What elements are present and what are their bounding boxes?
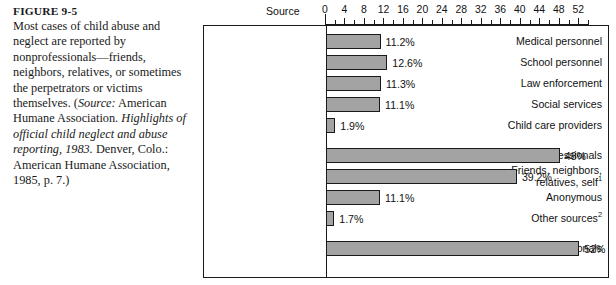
bar-category-label-line1: Law enforcement (521, 78, 602, 90)
x-axis-tick-label: 12 (378, 4, 390, 15)
chart-bar-row: Friends, neighbors,relatives, self139.2% (204, 166, 608, 187)
bar-value-label: 1.7% (334, 208, 363, 229)
chart-axis-header: Source 0481216202428323640444852 (203, 0, 609, 25)
x-axis-major-tick (422, 18, 423, 25)
bar-value-label: 39.2% (517, 166, 552, 187)
x-axis-major-tick (403, 18, 404, 25)
chart-bar-row: Law enforcement11.3% (204, 73, 608, 94)
caption-run: nonprofessionals—friends, (13, 50, 146, 64)
x-axis-tick-label: 20 (417, 4, 429, 15)
x-axis-tick-label: 48 (553, 4, 565, 15)
bar-category-label: Child care providers (488, 115, 608, 136)
bar-category-label: Law enforcement (488, 73, 608, 94)
bar-category-label-line1: Anonymous (546, 192, 602, 204)
x-axis-tick-label: 44 (533, 4, 545, 15)
footnote-marker: 1 (598, 174, 602, 183)
x-axis-major-tick (442, 18, 443, 25)
chart-bar (326, 97, 380, 112)
caption-run: Source: (78, 96, 116, 110)
bar-value-label: 11.1% (380, 187, 414, 208)
footnote-marker: 2 (598, 210, 602, 219)
x-axis-major-tick (539, 18, 540, 25)
chart-bar-row: Child care providers1.9% (204, 115, 608, 136)
chart-bar-row: Anonymous11.1% (204, 187, 608, 208)
chart-bar (326, 190, 380, 205)
bar-category-label-line1: Medical personnel (516, 36, 602, 48)
x-axis-tick-label: 32 (475, 4, 487, 15)
bar-category-label-line1: Child care providers (508, 120, 602, 132)
x-axis-tick-label: 52 (572, 4, 584, 15)
bar-category-label: Social services (488, 94, 608, 115)
chart-bar-row: Total professionals48% (204, 145, 608, 166)
x-axis-tick-label: 4 (342, 4, 348, 15)
bar-value-label: 1.9% (335, 115, 364, 136)
chart-bar (326, 118, 335, 133)
figure-caption-block: FIGURE 9-5 Most cases of child abuse and… (13, 4, 195, 281)
x-axis-tick-label: 36 (495, 4, 507, 15)
x-axis-major-tick (500, 18, 501, 25)
bar-category-label-line1: Other sources2 (531, 213, 602, 225)
bar-value-label: 12.6% (387, 52, 422, 73)
x-axis-major-tick (383, 18, 384, 25)
figure-number-label: FIGURE 9-5 (13, 4, 195, 18)
x-axis-major-tick (481, 18, 482, 25)
x-axis-tick-label: 28 (456, 4, 468, 15)
x-axis-zero-tick (325, 14, 326, 25)
x-axis-tick-label: 40 (514, 4, 526, 15)
bar-value-label: 52% (579, 238, 605, 259)
x-axis-major-tick (364, 18, 365, 25)
chart-bar (326, 76, 381, 91)
x-axis-major-tick (461, 18, 462, 25)
plot-area: Medical personnel11.2%School personnel12… (204, 26, 608, 277)
bar-category-label-line1: Social services (531, 99, 602, 111)
x-axis-major-tick (578, 18, 579, 25)
figure-caption-text: Most cases of child abuse and neglect ar… (13, 19, 195, 188)
x-axis-tick-label: 16 (397, 4, 409, 15)
caption-run: Most cases of child abuse and (13, 19, 160, 33)
bar-category-label: Anonymous (488, 187, 608, 208)
x-axis-tick-label: 24 (436, 4, 448, 15)
chart-bar (326, 169, 517, 184)
bar-category-label-line1: School personnel (520, 57, 602, 69)
bar-category-label: Medical personnel (488, 31, 608, 52)
bar-value-label: 11.3% (381, 73, 415, 94)
x-axis-major-tick (559, 18, 560, 25)
bar-value-label: 11.2% (381, 31, 415, 52)
x-axis-tick-label: 8 (361, 4, 367, 15)
bar-value-label: 11.1% (380, 94, 414, 115)
chart-bar-row: Medical personnel11.2% (204, 31, 608, 52)
chart-bar (326, 55, 387, 70)
chart-bar (326, 211, 334, 226)
chart-bar-row: Total nonprofessionals52% (204, 238, 608, 259)
chart-bar (326, 34, 381, 49)
chart-bar-row: School personnel12.6% (204, 52, 608, 73)
caption-run: neighbors, relatives, or (13, 65, 129, 79)
chart-bar-row: Other sources21.7% (204, 208, 608, 229)
chart-bar (326, 148, 560, 163)
chart-bar (326, 241, 579, 256)
caption-run: neglect are reported by (13, 34, 126, 48)
x-axis-scale: 0481216202428323640444852 (203, 0, 609, 25)
chart-bar-row: Social services11.1% (204, 94, 608, 115)
bar-category-label: School personnel (488, 52, 608, 73)
bar-value-label: 48% (560, 145, 586, 166)
x-axis-major-tick (520, 18, 521, 25)
bar-category-label: Other sources2 (488, 208, 608, 229)
x-axis-major-tick (344, 18, 345, 25)
chart-frame: Medical personnel11.2%School personnel12… (203, 25, 609, 278)
